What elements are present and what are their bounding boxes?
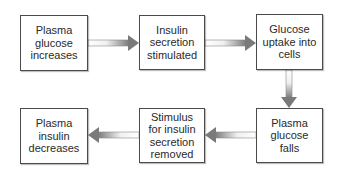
node-label: Insulin secretion stimulated	[147, 24, 197, 62]
arrow-n2-to-n3	[205, 35, 256, 51]
node-plasma-glucose-falls: Plasma glucose falls	[256, 108, 323, 163]
node-label: Stimulus for insulin secretion removed	[148, 111, 195, 161]
arrow-n4-to-n5	[205, 127, 256, 143]
node-label: Plasma glucose increases	[30, 24, 77, 62]
arrow-n3-to-n4	[281, 70, 297, 108]
node-insulin-secretion-stimulated: Insulin secretion stimulated	[139, 15, 205, 70]
node-label: Plasma insulin decreases	[29, 117, 80, 155]
node-plasma-glucose-increases: Plasma glucose increases	[20, 15, 88, 71]
node-stimulus-for-insulin-secretion-removed: Stimulus for insulin secretion removed	[139, 108, 205, 163]
node-label: Plasma glucose falls	[271, 117, 309, 155]
arrow-n1-to-n2	[88, 35, 139, 51]
node-label: Glucose uptake into cells	[263, 23, 317, 61]
node-glucose-uptake-into-cells: Glucose uptake into cells	[256, 14, 323, 70]
node-plasma-insulin-decreases: Plasma insulin decreases	[20, 108, 88, 164]
arrow-n5-to-n6	[88, 127, 139, 143]
